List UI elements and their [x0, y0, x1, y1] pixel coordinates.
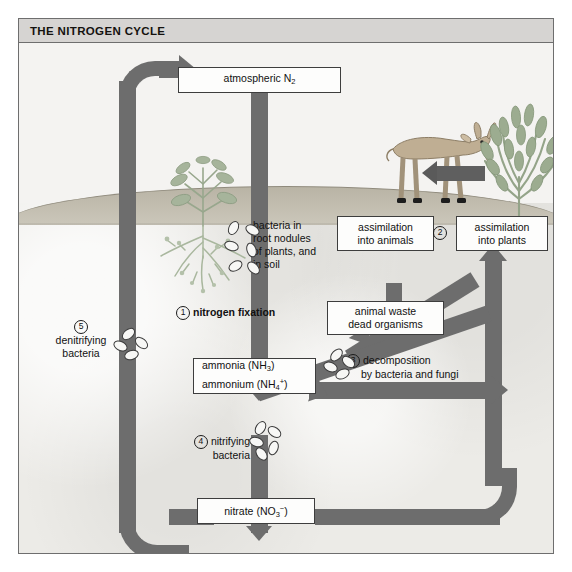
- denitrifying-num-row: 5: [41, 320, 121, 334]
- box-assimilation-plants[interactable]: assimilation into plants: [456, 216, 548, 251]
- bacteria-root-line4: in soil: [253, 258, 363, 271]
- denitrifying-line1: denitrifying: [41, 334, 121, 347]
- step-number-1: 1: [176, 306, 190, 320]
- bacteria-cluster-decomposition: [323, 350, 357, 382]
- assimilation-animals-line2: into animals: [357, 234, 413, 247]
- bacteria-cluster-nitrifying: [247, 423, 283, 459]
- nitrifying-line2: bacteria: [154, 449, 250, 462]
- arrow-denitrification-vertical: [119, 81, 136, 533]
- decomposition-line1: 3decomposition: [346, 354, 516, 368]
- assimilation-animals-line1: assimilation: [358, 221, 413, 234]
- step-number-4: 4: [194, 435, 208, 449]
- box-atmospheric-n2[interactable]: atmospheric N2: [178, 67, 341, 93]
- label-decomposition: 3decomposition by bacteria and fungi: [346, 354, 516, 381]
- bacteria-root-line2: root nodules: [253, 232, 363, 245]
- label-denitrifying-bacteria: 5 denitrifying bacteria: [41, 320, 121, 360]
- step-number-5: 5: [74, 320, 88, 334]
- animal-waste-line1: animal waste: [355, 305, 416, 318]
- bacteria-cluster-denitrifying: [113, 329, 149, 363]
- step-number-2: 2: [433, 226, 447, 240]
- arrow-shrub-to-goat-head: [422, 161, 437, 185]
- label-assimilation-plants-step: 2: [433, 226, 450, 240]
- box-ammonia-ammonium[interactable]: ammonia (NH3) ammonium (NH4+): [193, 358, 316, 394]
- arrow-nitrification-head: [246, 526, 272, 541]
- box-nitrate[interactable]: nitrate (NO3−): [197, 498, 315, 524]
- label-nitrogen-fixation: 1nitrogen fixation: [176, 306, 275, 320]
- assimilation-plants-line1: assimilation: [475, 221, 530, 234]
- bacteria-root-line1: bacteria in: [253, 219, 363, 232]
- bacteria-root-line3: of plants, and: [253, 245, 363, 258]
- arrow-shrub-to-goat: [437, 166, 485, 181]
- diagram-scene: atmospheric N2 ammonia (NH3) ammonium (N…: [19, 43, 553, 553]
- denitrifying-line2: bacteria: [41, 347, 121, 360]
- atmospheric-n2-label: atmospheric N2: [224, 72, 296, 88]
- ammonia-label: ammonia (NH3): [202, 359, 274, 375]
- arrow-ammonia-to-right: [309, 382, 495, 399]
- label-bacteria-root-nodules: bacteria in root nodules of plants, and …: [253, 219, 363, 271]
- ammonium-label: ammonium (NH4+): [202, 375, 288, 394]
- label-nitrifying-bacteria: 4nitrifying bacteria: [154, 435, 250, 462]
- box-animal-waste[interactable]: animal waste dead organisms: [327, 301, 444, 335]
- shrub-illustration: [469, 91, 553, 223]
- decomposition-line2: by bacteria and fungi: [361, 368, 516, 381]
- page-title: THE NITROGEN CYCLE: [30, 25, 165, 37]
- animal-waste-line2: dead organisms: [348, 318, 423, 331]
- bacteria-cluster-fixation: [222, 221, 264, 277]
- nitrate-label: nitrate (NO3−): [224, 502, 287, 521]
- nitrifying-line1: 4nitrifying: [154, 435, 250, 449]
- nitrogen-fixation-text: nitrogen fixation: [193, 306, 275, 318]
- figure-title-bar: THE NITROGEN CYCLE: [19, 19, 553, 43]
- arrow-denitrification-elbow-bottom: [119, 498, 189, 553]
- figure-canvas: THE NITROGEN CYCLE: [0, 0, 572, 572]
- assimilation-plants-line2: into plants: [478, 234, 526, 247]
